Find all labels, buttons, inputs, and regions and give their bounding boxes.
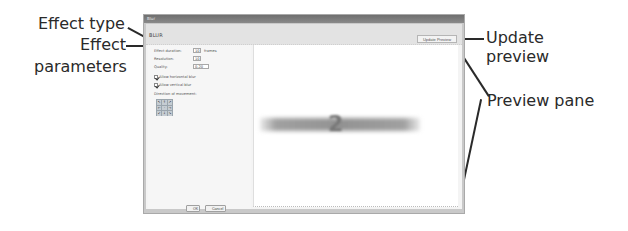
callout-update-preview-1: Update — [486, 29, 544, 46]
preview-pane: 2 — [253, 45, 458, 207]
vertical-blur-option[interactable]: Allow vertical blur — [154, 83, 191, 87]
dialog-body: Effect duration: 10 frames Resolution: 1… — [146, 45, 462, 209]
callout-effect-parameters-2: parameters — [34, 58, 127, 75]
horizontal-blur-label: Allow horizontal blur — [159, 75, 196, 79]
direction-down-button[interactable]: ↓ — [162, 111, 166, 116]
callout-effect-type: Effect type — [38, 15, 125, 32]
direction-left-button[interactable]: ← — [157, 106, 161, 111]
direction-down-left-button[interactable]: ↙ — [157, 111, 161, 116]
effect-header: BLUR Update Preview — [146, 24, 462, 45]
blurred-preview-image: 2 — [260, 114, 420, 135]
quality-input[interactable]: 0.20 — [193, 64, 209, 69]
callout-update-preview-2: preview — [486, 48, 549, 65]
direction-up-right-button[interactable]: ↗ — [168, 100, 172, 105]
callout-line-effect-parameters — [126, 45, 144, 47]
window-title: Blur — [147, 15, 155, 23]
direction-right-button[interactable]: → — [168, 106, 172, 111]
effect-type-label: BLUR — [149, 32, 163, 38]
callout-effect-parameters-1: Effect — [80, 36, 126, 53]
effect-parameters-panel: Effect duration: 10 frames Resolution: 1… — [148, 45, 251, 209]
duration-label: Effect duration: — [154, 49, 182, 53]
cancel-button[interactable]: Cancel — [205, 205, 226, 212]
direction-up-left-button[interactable]: ↖ — [157, 100, 161, 105]
direction-up-button[interactable]: ↑ — [162, 100, 166, 105]
duration-unit: frames — [204, 49, 217, 53]
horizontal-blur-checkbox[interactable] — [154, 75, 158, 79]
vertical-blur-checkbox[interactable] — [154, 83, 158, 87]
direction-down-right-button[interactable]: ↘ — [168, 111, 172, 116]
resolution-label: Resolution: — [154, 57, 174, 61]
horizontal-blur-option[interactable]: Allow horizontal blur — [154, 75, 196, 79]
blur-effect-dialog: Blur BLUR Update Preview Effect duration… — [143, 14, 465, 214]
vertical-blur-label: Allow vertical blur — [159, 83, 191, 87]
direction-center-button[interactable]: · — [162, 106, 166, 111]
direction-grid: ↖ ↑ ↗ ← · → ↙ ↓ ↘ — [156, 99, 173, 116]
quality-label: Quality: — [154, 65, 168, 69]
direction-label: Direction of movement: — [154, 92, 197, 96]
duration-input[interactable]: 10 — [193, 48, 201, 53]
title-bar[interactable]: Blur — [144, 15, 464, 23]
ok-button[interactable]: OK — [186, 205, 200, 212]
resolution-input[interactable]: 10 — [193, 56, 201, 61]
update-preview-button[interactable]: Update Preview — [417, 35, 457, 43]
blurred-center-glyph: 2 — [328, 112, 343, 136]
callout-preview-pane: Preview pane — [487, 92, 594, 109]
